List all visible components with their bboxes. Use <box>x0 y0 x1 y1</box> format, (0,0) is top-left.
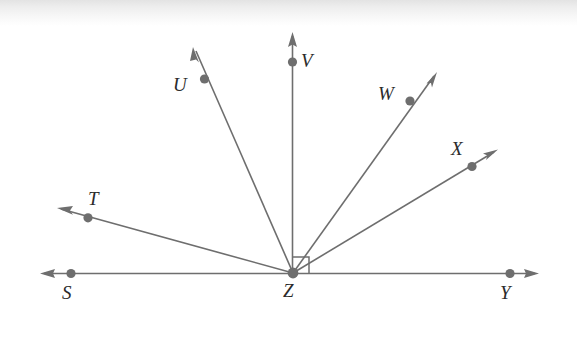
label-y: Y <box>500 283 511 302</box>
geometry-figure: S T U V W X Y Z <box>0 0 577 338</box>
ray-zu <box>190 47 293 273</box>
point-u-dot <box>200 74 209 83</box>
ray-zv <box>288 32 297 273</box>
ray-zy <box>293 269 539 278</box>
label-v: V <box>301 51 313 70</box>
label-z: Z <box>283 281 294 300</box>
point-x-dot <box>467 162 476 171</box>
ray-zx-arrowhead <box>483 150 498 161</box>
point-t-dot <box>83 213 92 222</box>
ray-zw <box>293 72 437 273</box>
label-w: W <box>378 84 394 103</box>
ray-zx <box>293 150 498 274</box>
point-z-dot <box>288 268 299 279</box>
ray-zy-arrowhead <box>524 269 539 278</box>
ray-zt-arrowhead <box>57 206 73 215</box>
ray-zw-line <box>293 76 434 273</box>
label-t: T <box>88 189 99 208</box>
label-s: S <box>62 283 72 302</box>
point-w-dot <box>405 96 414 105</box>
ray-zx-line <box>293 152 494 273</box>
point-y-dot <box>505 269 514 278</box>
point-v-dot <box>288 57 297 66</box>
ray-zs <box>40 269 293 278</box>
label-x: X <box>451 139 463 158</box>
ray-zt-line <box>61 209 293 273</box>
point-s-dot <box>66 269 75 278</box>
ray-zu-line <box>196 51 293 273</box>
ray-zt <box>57 206 293 273</box>
ray-zs-arrowhead <box>40 269 55 278</box>
label-u: U <box>173 75 187 94</box>
